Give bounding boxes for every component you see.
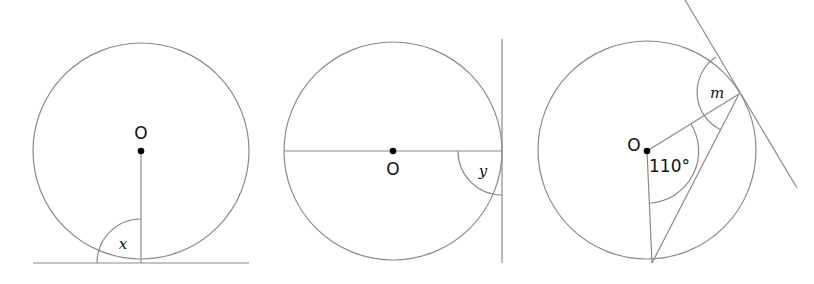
center-point-3 bbox=[644, 148, 651, 155]
center-point-2 bbox=[390, 148, 397, 155]
tangent-line-3 bbox=[685, 0, 797, 188]
center-label-3: O bbox=[627, 135, 640, 155]
figure-3: O 110° m bbox=[538, 0, 797, 263]
center-label-2: O bbox=[386, 159, 399, 179]
angle-label-m: m bbox=[710, 84, 724, 102]
radius-3a bbox=[647, 94, 739, 151]
angle-label-y: y bbox=[478, 162, 488, 180]
figure-2: O y bbox=[284, 39, 502, 263]
angle-label-x: x bbox=[119, 235, 128, 253]
central-angle-label: 110° bbox=[649, 156, 690, 176]
center-point-1 bbox=[138, 148, 145, 155]
chord-3 bbox=[652, 94, 739, 263]
figure-1: O x bbox=[33, 43, 249, 263]
center-label-1: O bbox=[134, 123, 147, 143]
diagram-canvas: O x O y O 110° m bbox=[0, 0, 814, 284]
